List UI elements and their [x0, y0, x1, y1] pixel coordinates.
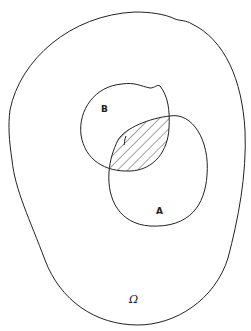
venn-diagram: B A Ω: [0, 0, 251, 331]
set-a-label: A: [156, 206, 163, 216]
set-b-label: B: [101, 104, 108, 114]
universe-label: Ω: [128, 293, 138, 306]
